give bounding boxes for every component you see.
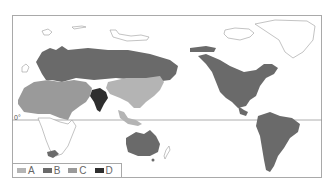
legend-swatch-B	[43, 168, 52, 173]
region-C-north-africa-middle-east	[18, 80, 92, 120]
new-zealand	[164, 146, 170, 159]
legend-label-D: D	[106, 165, 113, 176]
legend-item-B: B	[43, 165, 61, 176]
legend-label-B: B	[54, 165, 61, 176]
legend-item-D: D	[95, 165, 113, 176]
region-D-india	[90, 88, 108, 112]
region-B-alaska-strip	[190, 46, 216, 52]
legend-item-C: C	[68, 165, 86, 176]
map-legend: A B C D	[12, 163, 122, 178]
region-B-north-america	[198, 54, 278, 108]
region-B-australia	[126, 130, 160, 156]
legend-swatch-C	[68, 168, 77, 173]
region-A-china-se-asia	[106, 76, 164, 108]
africa-outline	[38, 118, 76, 156]
legend-item-A: A	[17, 165, 35, 176]
region-B-south-america	[256, 112, 300, 172]
tasmania	[152, 159, 155, 162]
equator-label: 0°	[14, 114, 21, 121]
region-A-indonesia	[118, 110, 142, 126]
legend-label-A: A	[28, 165, 35, 176]
region-B-central-america	[238, 106, 248, 116]
legend-swatch-D	[95, 168, 104, 173]
world-map	[0, 0, 334, 186]
legend-label-C: C	[79, 165, 86, 176]
legend-swatch-A	[17, 168, 26, 173]
